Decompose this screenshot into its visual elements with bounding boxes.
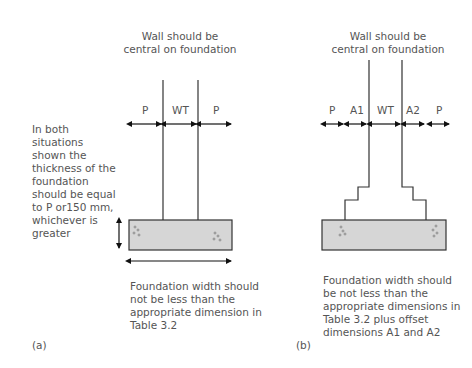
caption-line: be not less than the	[323, 287, 472, 300]
wall-stepped-left	[345, 60, 369, 220]
diagram-b-caption: Foundation width should be not less than…	[323, 274, 472, 339]
note-line: foundation	[32, 175, 132, 188]
figure-label-a: (a)	[32, 339, 47, 352]
dim-label-wt: WT	[377, 104, 394, 117]
caption-line: dimensions A1 and A2	[323, 326, 472, 339]
diagram-b	[322, 60, 449, 250]
dim-label-p: P	[436, 104, 442, 117]
dim-label-wt: WT	[172, 104, 189, 117]
caption-line: Table 3.2	[130, 319, 270, 332]
note-line: In both	[32, 123, 132, 136]
note-line: greater	[32, 227, 132, 240]
dim-label-a2: A2	[406, 104, 420, 117]
caption-line: not be less than the	[130, 293, 270, 306]
dim-label-p: P	[329, 104, 335, 117]
dim-label-p: P	[142, 104, 148, 117]
foundation-block	[322, 220, 446, 250]
note-line: to P or150 mm,	[32, 201, 132, 214]
title-line: Wall should be	[120, 30, 240, 43]
note-line: whichever is	[32, 214, 132, 227]
wall-stepped-right	[402, 60, 426, 220]
side-note: In both situations shown the thickness o…	[32, 123, 132, 240]
caption-line: Foundation width should	[130, 280, 270, 293]
title-line: central on foundation	[120, 43, 240, 56]
dim-label-a1: A1	[350, 104, 364, 117]
title-line: Wall should be	[328, 30, 448, 43]
caption-line: appropriate dimension in	[130, 306, 270, 319]
figure-label-b: (b)	[296, 339, 311, 352]
title-line: central on foundation	[328, 43, 448, 56]
foundation-block	[129, 220, 232, 250]
diagram-a-title: Wall should be central on foundation	[120, 30, 240, 56]
note-line: should be equal	[32, 188, 132, 201]
note-line: thickness of the	[32, 162, 132, 175]
note-line: situations	[32, 136, 132, 149]
caption-line: Foundation width should	[323, 274, 472, 287]
diagram-b-title: Wall should be central on foundation	[328, 30, 448, 56]
note-line: shown the	[32, 149, 132, 162]
dim-label-p: P	[213, 104, 219, 117]
caption-line: appropriate dimensions in	[323, 300, 472, 313]
diagram-a-caption: Foundation width should not be less than…	[130, 280, 270, 332]
caption-line: Table 3.2 plus offset	[323, 313, 472, 326]
